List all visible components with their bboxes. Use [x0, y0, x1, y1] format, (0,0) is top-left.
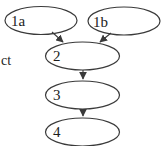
node-4: 4: [46, 118, 120, 146]
flowchart-canvas: 1a 1b 2 3 4 ct: [0, 0, 161, 146]
node-3: 3: [46, 81, 120, 109]
node-3-label: 3: [53, 87, 61, 103]
flowchart-diagram: 1a 1b 2 3 4 ct: [0, 0, 161, 146]
node-4-label: 4: [53, 124, 61, 140]
node-2: 2: [46, 42, 120, 70]
node-1b: 1b: [88, 7, 160, 35]
clipped-side-text: ct: [1, 53, 11, 68]
node-1b-label: 1b: [93, 14, 108, 30]
node-1a-label: 1a: [11, 13, 26, 29]
node-1a: 1a: [5, 7, 77, 35]
node-2-label: 2: [53, 48, 61, 64]
